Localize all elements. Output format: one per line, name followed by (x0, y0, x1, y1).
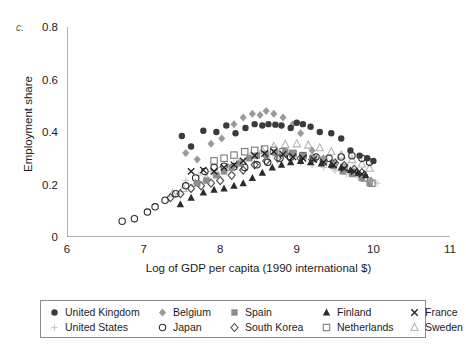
plot-area (67, 27, 450, 237)
open-triangle-icon (409, 322, 420, 333)
legend-item-spain[interactable]: Spain (229, 307, 321, 318)
x-tick-10: 10 (367, 243, 380, 255)
legend-label: Japan (173, 322, 202, 333)
open-square-icon (321, 322, 332, 333)
figure-panel: c. Employment share 00.20.40.60.8 678910… (0, 0, 466, 350)
open-circle-icon (157, 322, 168, 333)
x-tick-11: 11 (444, 243, 456, 255)
legend-label: Netherlands (337, 322, 394, 333)
legend-item-france[interactable]: France (409, 307, 466, 318)
x-tick-7: 7 (140, 243, 146, 255)
legend-item-south-korea[interactable]: South Korea (229, 322, 321, 333)
y-tick-0: 0 (0, 231, 58, 243)
legend-item-belgium[interactable]: Belgium (157, 307, 229, 318)
x-axis-label: Log of GDP per capita (1990 internationa… (67, 262, 450, 274)
x-tick-9: 9 (294, 243, 300, 255)
cross-icon (409, 307, 420, 318)
open-diamond-icon (229, 322, 240, 333)
legend-item-sweden[interactable]: Sweden (409, 322, 466, 333)
legend-label: Sweden (425, 322, 463, 333)
legend-item-finland[interactable]: Finland (321, 307, 409, 318)
legend-item-netherlands[interactable]: Netherlands (321, 322, 409, 333)
legend-label: France (425, 307, 458, 318)
legend-label: South Korea (245, 322, 303, 333)
x-tick-6: 6 (64, 243, 70, 255)
legend-label: Spain (245, 307, 272, 318)
series-united-kingdom (179, 120, 377, 164)
filled-triangle-icon (321, 307, 332, 318)
legend-label: United Kingdom (65, 307, 140, 318)
filled-square-icon (229, 307, 240, 318)
legend-item-united-states[interactable]: United States (49, 322, 157, 333)
legend-item-japan[interactable]: Japan (157, 322, 229, 333)
legend: United KingdomBelgiumSpainFinlandFranceU… (40, 300, 426, 338)
filled-diamond-icon (157, 307, 168, 318)
legend-label: United States (65, 322, 128, 333)
x-tick-8: 8 (217, 243, 223, 255)
legend-label: Belgium (173, 307, 211, 318)
filled-circle-icon (49, 307, 60, 318)
y-tick-0.8: 0.8 (0, 21, 58, 33)
plus-icon (49, 322, 60, 333)
y-tick-0.4: 0.4 (0, 126, 58, 138)
scatter-svg (67, 27, 450, 237)
y-tick-0.2: 0.2 (0, 179, 58, 191)
legend-label: Finland (337, 307, 371, 318)
y-tick-0.6: 0.6 (0, 74, 58, 86)
legend-item-united-kingdom[interactable]: United Kingdom (49, 307, 157, 318)
